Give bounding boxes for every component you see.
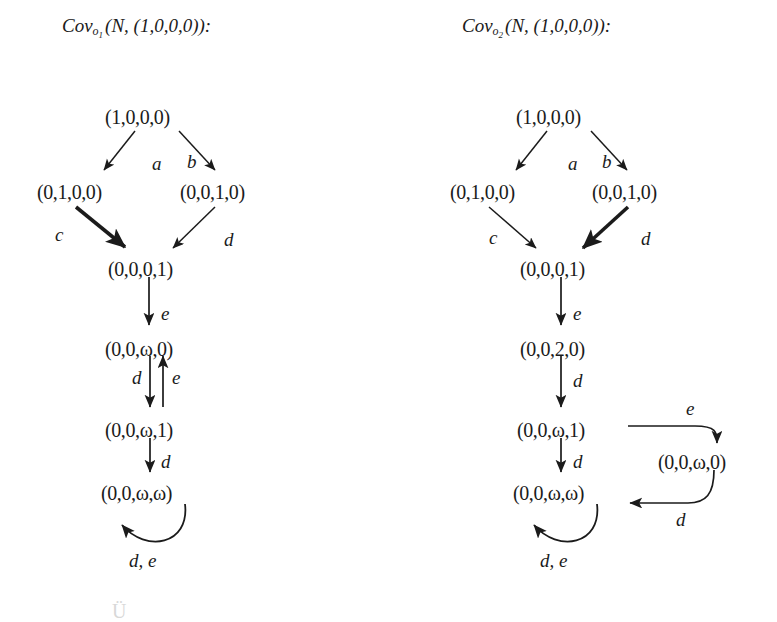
edge-label-left-b: b [187,152,197,171]
node-left-0-0-w-0: (0,0,ω,0) [105,339,173,359]
edge-left-a [104,131,135,170]
node-left-0-0-w-w: (0,0,ω,ω) [101,483,172,503]
edge-right-e2 [628,426,717,443]
panel-title-right-argument: (N, (1,0,0,0)): [505,15,611,36]
edge-label-left-d-down: d [132,368,142,387]
node-right-0-1-0-0: (0,1,0,0) [450,182,515,202]
node-right-0-0-w-w: (0,0,ω,ω) [513,483,584,503]
edge-label-right-a: a [568,154,578,173]
edge-left-d1 [173,207,215,248]
edge-label-left-d-lower: d [161,452,171,471]
node-left-0-0-0-1: (0,0,0,1) [108,259,173,279]
edge-left-selfloop [122,504,185,542]
node-left-1-0-0-0: (1,0,0,0) [105,107,170,127]
edge-label-left-selfloop: d, e [129,551,156,570]
node-right-1-0-0-0: (1,0,0,0) [516,107,581,127]
node-left-0-1-0-0: (0,1,0,0) [37,182,102,202]
node-right-0-0-2-0: (0,0,2,0) [520,339,585,359]
edge-label-left-c: c [55,225,63,244]
edge-label-right-d-curve: d [676,510,686,529]
cropped-footer-glyph: Ü [112,601,126,621]
node-left-0-0-1-0: (0,0,1,0) [180,182,245,202]
panel-title-left-prefix: Cov [62,15,93,36]
edge-label-right-b: b [602,152,612,171]
edge-label-left-a: a [152,154,162,173]
node-left-0-0-w-1: (0,0,ω,1) [105,420,173,440]
edge-label-right-c: c [489,228,497,247]
edge-left-b [179,131,215,170]
panel-title-right: Covo2(N, (1,0,0,0)): [462,16,611,40]
edge-label-right-e-first: e [573,304,581,323]
node-right-0-0-w-0: (0,0,ω,0) [658,452,726,472]
edge-left-c [76,207,125,247]
panel-title-left: Covo1(N, (1,0,0,0)): [62,16,211,40]
edge-right-d1 [583,207,628,248]
panel-title-right-prefix: Cov [462,15,493,36]
edge-label-left-e-first: e [161,304,169,323]
edge-label-right-d-top: d [641,229,651,248]
edge-label-left-d-top: d [224,230,234,249]
panel-title-right-subscript: o2 [493,24,504,38]
edge-label-right-e-curve: e [686,399,694,418]
node-right-0-0-w-1: (0,0,ω,1) [517,420,585,440]
edge-label-right-d-second: d [573,371,583,390]
edge-label-right-selfloop: d, e [540,551,567,570]
node-right-0-0-1-0: (0,0,1,0) [592,182,657,202]
node-right-0-0-0-1: (0,0,0,1) [520,259,585,279]
panel-title-left-subscript: o1 [93,24,104,38]
edge-label-left-e-up: e [172,368,180,387]
edge-label-right-d-lower: d [573,452,583,471]
panel-title-left-subscript-index: 1 [99,30,104,40]
edge-right-a [516,131,547,170]
panel-title-right-subscript-index: 2 [499,30,504,40]
panel-title-left-argument: (N, (1,0,0,0)): [105,15,211,36]
edge-right-selfloop [534,504,597,542]
edge-right-d4 [630,470,714,503]
